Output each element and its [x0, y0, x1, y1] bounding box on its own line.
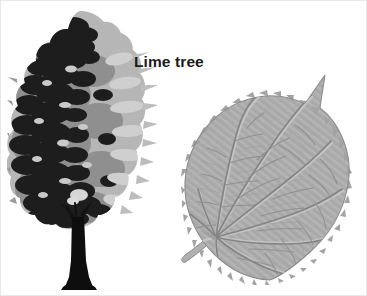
tree-illustration — [7, 9, 157, 294]
lime-tree-figure: Lime tree — [0, 0, 367, 296]
species-label: Lime tree — [134, 53, 204, 71]
leaf-illustration — [169, 53, 361, 285]
tree-canopy — [7, 9, 157, 239]
